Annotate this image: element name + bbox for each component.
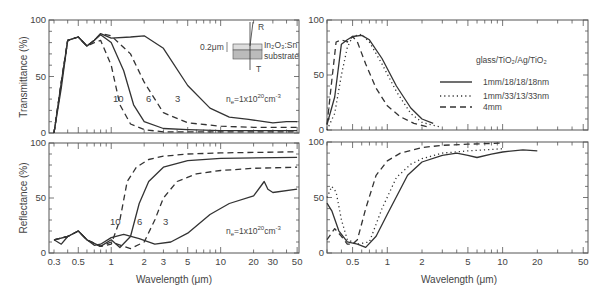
curve-label-6-bottom: 6 bbox=[137, 216, 142, 227]
y-tick-label: 100 bbox=[308, 136, 324, 147]
figure: 0501000501000.30.51235102030500501000501… bbox=[0, 0, 606, 301]
panel-bottom-left: 0501000.30.5123510203050 bbox=[30, 137, 302, 267]
y-tick-label: 50 bbox=[35, 192, 46, 203]
x-tick-label: 5 bbox=[465, 256, 470, 267]
x-tick-label: 50 bbox=[578, 256, 589, 267]
svg-text:4mm: 4mm bbox=[483, 102, 502, 112]
x-tick-label: 5 bbox=[185, 256, 190, 267]
x-tick-label: 20 bbox=[248, 256, 259, 267]
svg-text:1mm/33/13/33nm: 1mm/33/13/33nm bbox=[483, 91, 549, 101]
right-x-axis-label: Wavelength (μm) bbox=[421, 274, 497, 285]
series-1mm-33-13-33nm bbox=[327, 149, 503, 244]
x-tick-label: 0.5 bbox=[346, 256, 359, 267]
panel-top-left: 050100 bbox=[30, 14, 299, 138]
y-tick-label: 50 bbox=[35, 71, 46, 82]
x-tick-label: 1 bbox=[109, 256, 114, 267]
x-tick-label: 20 bbox=[532, 256, 543, 267]
series-6 bbox=[54, 157, 297, 247]
y-tick-label: 100 bbox=[30, 14, 46, 25]
transmittance-axis-label: Transmittance (%) bbox=[18, 36, 29, 117]
curve-label-10-bottom: 10 bbox=[110, 216, 121, 227]
x-tick-label: 1 bbox=[385, 256, 390, 267]
curve-label-10-top: 10 bbox=[113, 93, 124, 104]
y-tick-label: 100 bbox=[30, 137, 46, 148]
svg-text:ne=1x1020cm-3: ne=1x1020cm-3 bbox=[226, 225, 282, 237]
curve-label-3-bottom: 3 bbox=[163, 216, 168, 227]
series-3 bbox=[54, 167, 297, 248]
series-1mm-18-18-18nm bbox=[327, 35, 433, 124]
x-tick-label: 3 bbox=[161, 256, 166, 267]
x-tick-label: 2 bbox=[419, 256, 424, 267]
panel-bottom-right: 0501000.5125102050 bbox=[308, 136, 588, 267]
x-tick-label: 30 bbox=[268, 256, 279, 267]
y-tick-label: 50 bbox=[313, 69, 324, 80]
inset-diagram: 0.2μm In₂O₃:Sn substrate R T bbox=[200, 22, 299, 74]
y-tick-label: 50 bbox=[313, 192, 324, 203]
svg-text:ne=1x1020cm-3: ne=1x1020cm-3 bbox=[226, 93, 282, 105]
inset-film: In₂O₃:Sn bbox=[264, 40, 297, 50]
series-4mm bbox=[327, 143, 503, 244]
x-tick-label: 10 bbox=[497, 256, 508, 267]
top-density-annotation: ne=1x1020cm-3 bbox=[226, 93, 282, 105]
reflectance-axis-label: Reflectance (%) bbox=[18, 162, 29, 233]
series-1mm-18-18-18nm bbox=[327, 150, 537, 248]
legend: glass/TiO₂/Ag/TiO₂ 1mm/18/18/18nm 1mm/33… bbox=[440, 55, 549, 112]
inset-r: R bbox=[258, 22, 264, 32]
left-x-axis-label: Wavelength (μm) bbox=[136, 274, 212, 285]
bottom-density-annotation: ne=1x1020cm-3 bbox=[226, 225, 282, 237]
svg-text:glass/TiO₂/Ag/TiO₂: glass/TiO₂/Ag/TiO₂ bbox=[476, 55, 547, 65]
series-1 bbox=[54, 182, 297, 246]
curve-label-3-top: 3 bbox=[175, 93, 180, 104]
x-tick-label: 0.5 bbox=[72, 256, 85, 267]
y-tick-label: 0 bbox=[319, 124, 324, 135]
series-1mm-33-13-33nm bbox=[327, 34, 439, 130]
inset-thickness: 0.2μm bbox=[200, 42, 224, 52]
x-tick-label: 50 bbox=[292, 256, 303, 267]
panel-top-right: 050100 bbox=[308, 14, 588, 135]
svg-text:1mm/18/18/18nm: 1mm/18/18/18nm bbox=[483, 77, 549, 87]
x-tick-label: 0.3 bbox=[47, 256, 60, 267]
inset-t: T bbox=[256, 64, 261, 74]
y-tick-label: 100 bbox=[308, 14, 324, 25]
x-tick-label: 2 bbox=[142, 256, 147, 267]
inset-substrate: substrate bbox=[264, 51, 299, 61]
x-tick-label: 10 bbox=[215, 256, 226, 267]
y-tick-label: 0 bbox=[41, 247, 46, 258]
y-tick-label: 0 bbox=[319, 247, 324, 258]
series-10 bbox=[54, 152, 297, 247]
curve-label-6-top: 6 bbox=[146, 93, 151, 104]
